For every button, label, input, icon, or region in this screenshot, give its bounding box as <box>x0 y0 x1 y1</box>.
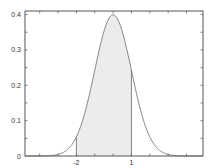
x-tick-label: -2 <box>73 159 79 166</box>
y-tick-label: 0.4 <box>11 11 21 18</box>
y-tick-label: 0.2 <box>11 82 21 89</box>
y-tick-label: 0 <box>17 153 21 160</box>
y-tick-label: 0.1 <box>11 117 21 124</box>
y-tick-label: 0.3 <box>11 46 21 53</box>
x-axis-labels: -21 <box>73 159 133 166</box>
y-axis-labels: 00.10.20.30.4 <box>11 11 21 159</box>
x-tick-label: 1 <box>129 159 133 166</box>
normal-distribution-chart: 00.10.20.30.4 -21 <box>0 0 212 168</box>
